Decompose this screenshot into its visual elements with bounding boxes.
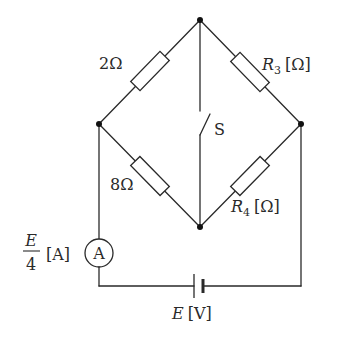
- ammeter-branch: A E 4 [A]: [23, 124, 113, 286]
- resistor-8-ohm-label: 8Ω: [110, 175, 133, 194]
- battery-label: E[V]: [171, 304, 212, 323]
- resistor-r4-branch: R4[Ω]: [200, 124, 301, 227]
- resistor-r3-branch: R3[Ω]: [200, 20, 311, 124]
- resistor-2-ohm-label: 2Ω: [99, 54, 122, 73]
- resistor-r4-label: R4[Ω]: [230, 197, 280, 219]
- ammeter-reading-denominator: 4: [26, 255, 36, 274]
- battery-branch: E[V]: [99, 274, 301, 323]
- node-right: [298, 121, 304, 127]
- node-top: [197, 17, 203, 23]
- ammeter-symbol: A: [92, 244, 105, 263]
- resistor-8-ohm: [131, 156, 170, 195]
- ammeter-reading-numerator: E: [24, 231, 37, 250]
- resistor-8-ohm-branch: 8Ω: [99, 124, 200, 227]
- resistor-2-ohm: [131, 51, 170, 90]
- resistor-r4: [231, 156, 270, 195]
- resistor-2-ohm-branch: 2Ω: [99, 20, 200, 124]
- node-bottom: [197, 224, 203, 230]
- switch-label: S: [214, 120, 225, 139]
- resistor-r3-label: R3[Ω]: [261, 55, 311, 77]
- node-left: [96, 121, 102, 127]
- circuit-diagram: 2Ω R3[Ω] 8Ω R4[Ω] S A E 4: [0, 0, 340, 356]
- ammeter-reading-unit: [A]: [46, 245, 70, 264]
- switch-lever[interactable]: [200, 114, 210, 135]
- switch-s[interactable]: S: [200, 20, 225, 227]
